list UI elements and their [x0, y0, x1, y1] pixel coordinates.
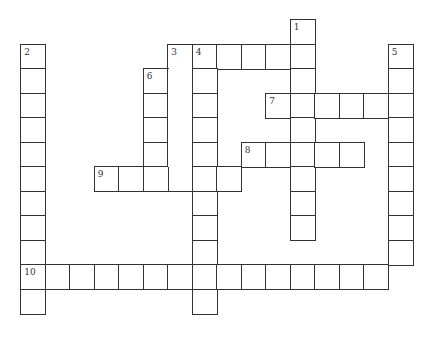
- clue-number: 2: [24, 47, 30, 57]
- crossword-cell[interactable]: [290, 142, 316, 168]
- crossword-cell[interactable]: [290, 166, 316, 192]
- crossword-cell[interactable]: [388, 240, 414, 266]
- crossword-grid: 12103456789: [0, 0, 431, 345]
- crossword-cell[interactable]: [388, 215, 414, 241]
- crossword-cell[interactable]: [314, 93, 340, 119]
- crossword-cell[interactable]: [192, 117, 218, 143]
- crossword-cell[interactable]: [143, 264, 169, 290]
- crossword-cell[interactable]: [290, 264, 316, 290]
- crossword-cell[interactable]: [265, 142, 291, 168]
- crossword-cell[interactable]: [192, 240, 218, 266]
- crossword-cell[interactable]: [265, 44, 291, 70]
- clue-number: 5: [392, 47, 398, 57]
- crossword-cell[interactable]: [20, 117, 46, 143]
- crossword-cell[interactable]: [20, 289, 46, 315]
- crossword-cell[interactable]: [388, 191, 414, 217]
- crossword-cell[interactable]: [388, 93, 414, 119]
- crossword-cell[interactable]: [265, 264, 291, 290]
- crossword-cell[interactable]: 4: [192, 44, 218, 70]
- crossword-cell[interactable]: [192, 191, 218, 217]
- crossword-cell[interactable]: [388, 68, 414, 94]
- crossword-cell[interactable]: 7: [265, 93, 291, 119]
- crossword-cell[interactable]: [388, 166, 414, 192]
- crossword-cell[interactable]: 2: [20, 44, 46, 70]
- crossword-cell[interactable]: [314, 142, 340, 168]
- clue-number: 10: [24, 267, 35, 277]
- crossword-cell[interactable]: [290, 191, 316, 217]
- crossword-cell[interactable]: [290, 68, 316, 94]
- crossword-cell[interactable]: [192, 264, 218, 290]
- crossword-cell[interactable]: [20, 68, 46, 94]
- crossword-open-column[interactable]: [167, 69, 193, 167]
- crossword-cell[interactable]: [143, 117, 169, 143]
- clue-number: 4: [196, 47, 202, 57]
- crossword-cell[interactable]: [20, 142, 46, 168]
- crossword-cell[interactable]: 3: [167, 44, 193, 70]
- crossword-cell[interactable]: 8: [241, 142, 267, 168]
- crossword-cell[interactable]: [363, 93, 389, 119]
- crossword-cell[interactable]: [192, 289, 218, 315]
- clue-number: 9: [98, 169, 104, 179]
- crossword-cell[interactable]: [20, 215, 46, 241]
- crossword-cell[interactable]: 6: [143, 68, 169, 94]
- crossword-cell[interactable]: [20, 240, 46, 266]
- crossword-cell[interactable]: [339, 142, 365, 168]
- crossword-cell[interactable]: [192, 68, 218, 94]
- crossword-cell[interactable]: [143, 93, 169, 119]
- crossword-cell[interactable]: 10: [20, 264, 46, 290]
- crossword-cell[interactable]: [20, 191, 46, 217]
- crossword-cell[interactable]: [20, 166, 46, 192]
- crossword-cell[interactable]: [192, 215, 218, 241]
- crossword-cell[interactable]: [45, 264, 71, 290]
- clue-number: 3: [171, 47, 177, 57]
- crossword-cell[interactable]: [192, 166, 218, 192]
- crossword-cell[interactable]: [241, 44, 267, 70]
- crossword-cell[interactable]: [388, 142, 414, 168]
- crossword-cell[interactable]: [118, 166, 144, 192]
- clue-number: 7: [269, 96, 275, 106]
- crossword-cell[interactable]: [216, 264, 242, 290]
- crossword-cell[interactable]: [339, 264, 365, 290]
- crossword-cell[interactable]: 1: [290, 19, 316, 45]
- crossword-cell[interactable]: [69, 264, 95, 290]
- crossword-cell[interactable]: 5: [388, 44, 414, 70]
- crossword-cell[interactable]: [118, 264, 144, 290]
- clue-number: 6: [147, 71, 153, 81]
- crossword-cell[interactable]: [216, 166, 242, 192]
- crossword-cell[interactable]: [363, 264, 389, 290]
- crossword-cell[interactable]: [314, 264, 340, 290]
- crossword-cell[interactable]: [216, 44, 242, 70]
- crossword-cell[interactable]: [143, 142, 169, 168]
- crossword-cell[interactable]: [94, 264, 120, 290]
- crossword-cell[interactable]: [241, 264, 267, 290]
- crossword-cell[interactable]: [290, 93, 316, 119]
- crossword-cell[interactable]: [388, 117, 414, 143]
- crossword-cell[interactable]: [167, 166, 193, 192]
- crossword-cell[interactable]: [290, 117, 316, 143]
- crossword-cell[interactable]: [290, 44, 316, 70]
- clue-number: 8: [245, 145, 251, 155]
- crossword-cell[interactable]: [143, 166, 169, 192]
- crossword-cell[interactable]: [339, 93, 365, 119]
- crossword-cell[interactable]: [20, 93, 46, 119]
- crossword-cell[interactable]: 9: [94, 166, 120, 192]
- crossword-cell[interactable]: [192, 142, 218, 168]
- crossword-cell[interactable]: [192, 93, 218, 119]
- clue-number: 1: [294, 22, 300, 32]
- crossword-cell[interactable]: [290, 215, 316, 241]
- crossword-cell[interactable]: [167, 264, 193, 290]
